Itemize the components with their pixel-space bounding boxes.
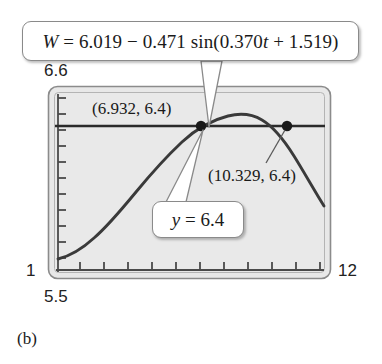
yline-callout-box: y = 6.4 (152, 201, 244, 238)
x-axis-max-label: 12 (338, 262, 357, 279)
y-axis-min-label: 1 (26, 262, 35, 279)
y-axis-max-label: 6.6 (44, 62, 68, 79)
point-2-annotation: (10.329, 6.4) (208, 167, 296, 184)
figure-caption: (b) (17, 330, 37, 347)
x-axis-min-label: 5.5 (44, 288, 68, 305)
intersection-point-1 (196, 121, 206, 131)
yline-text: y = 6.4 (172, 210, 224, 229)
figure-container: 6.6 1 5.5 12 (6.932, 6.4) (10.329, 6.4) … (0, 0, 382, 364)
point-1-annotation: (6.932, 6.4) (92, 100, 171, 117)
equation-callout-box: W = 6.019 − 0.471 sin(0.370t + 1.519) (22, 21, 359, 61)
equation-text: W = 6.019 − 0.471 sin(0.370t + 1.519) (42, 32, 338, 51)
intersection-point-2 (282, 121, 292, 131)
